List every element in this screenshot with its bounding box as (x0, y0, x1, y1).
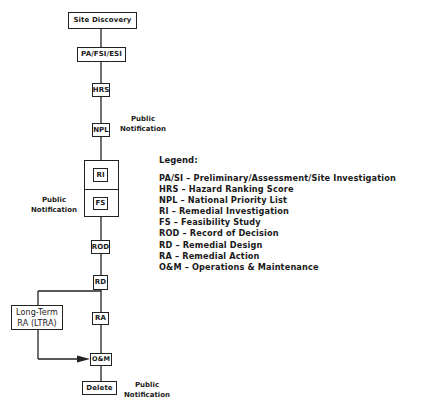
legend-title: Legend: (159, 155, 198, 165)
ltra-line-2: RA (LTRA) (17, 318, 56, 329)
npl-public-notification: Public Notification (120, 114, 166, 134)
node-delete: Delete (82, 381, 117, 395)
note-line-2: Notification (31, 206, 77, 214)
legend-item-fs: FS – Feasibility Study (159, 217, 396, 228)
note-line-1: Public (42, 196, 66, 204)
node-npl: NPL (92, 123, 110, 137)
node-rd: RD (93, 275, 108, 290)
superfund-process-diagram: Site Discovery PA/FSI/ESI HRS NPL Public… (0, 0, 427, 414)
note-line-1: Public (131, 115, 155, 123)
rifs-public-notification: Public Notification (31, 195, 77, 215)
legend-item-om: O&M – Operations & Maintenance (159, 262, 396, 273)
legend-item-npl: NPL – National Priority List (159, 195, 396, 206)
legend-item-rd: RD – Remedial Design (159, 240, 396, 251)
node-long-term-ra: Long-Term RA (LTRA) (11, 305, 63, 330)
arrowhead-icon (77, 356, 90, 363)
note-line-2: Notification (120, 125, 166, 133)
legend-list: PA/SI – Preliminary/Assessment/Site Inve… (159, 173, 396, 273)
node-om: O&M (90, 353, 112, 366)
note-line-2: Notification (124, 391, 170, 399)
node-pa-fsi-esi: PA/FSI/ESI (77, 47, 126, 62)
legend-item-hrs: HRS – Hazard Ranking Score (159, 184, 396, 195)
node-site-discovery: Site Discovery (68, 12, 137, 29)
legend-item-ra: RA – Remedial Action (159, 251, 396, 262)
ri-fs-divider (84, 189, 119, 190)
legend-item-pasi: PA/SI – Preliminary/Assessment/Site Inve… (159, 173, 396, 184)
note-line-1: Public (135, 381, 159, 389)
delete-public-notification: Public Notification (124, 380, 170, 400)
node-rod: ROD (91, 240, 110, 254)
legend-item-rod: ROD – Record of Decision (159, 228, 396, 239)
node-hrs: HRS (92, 83, 110, 97)
legend-item-ri: RI – Remedial Investigation (159, 206, 396, 217)
ltra-line-1: Long-Term (16, 307, 58, 318)
node-fs: FS (93, 197, 108, 210)
node-ri: RI (93, 168, 108, 182)
node-ra: RA (92, 312, 109, 325)
